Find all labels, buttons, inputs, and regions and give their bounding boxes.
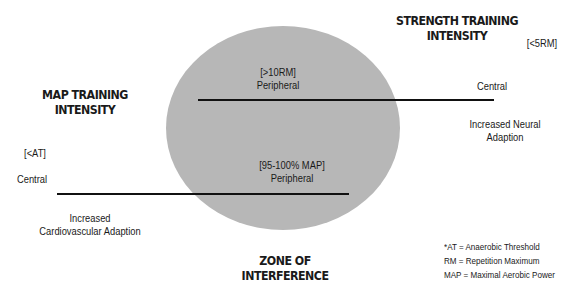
legend-item-rm: RM = Repetition Maximum	[444, 254, 563, 268]
legend-item-at: *AT = Anaerobic Threshold	[444, 240, 563, 254]
zone-of-interference-ellipse	[166, 26, 400, 230]
map-range-label: [<AT]	[21, 147, 50, 160]
zone-of-interference-label: ZONE OF INTERFERENCE	[217, 253, 353, 283]
map-high-value: [95-100% MAP]	[241, 159, 343, 172]
map-intensity-line	[57, 193, 349, 195]
map-outcome-line2: Cardiovascular Adaption	[31, 225, 150, 238]
strength-outcome-line2: Adaption	[458, 131, 552, 144]
strength-high-sub: Peripheral	[231, 79, 325, 92]
map-outcome: Increased Cardiovascular Adaption	[31, 212, 150, 238]
strength-intensity-line	[198, 99, 494, 101]
strength-range-label: [<5RM]	[523, 37, 560, 50]
strength-high-value: [>10RM]	[231, 66, 325, 79]
strength-title-line1: STRENGTH TRAINING	[393, 13, 521, 28]
map-central-label: Central	[15, 173, 49, 186]
map-training-title: MAP TRAINING INTENSITY	[30, 87, 141, 117]
strength-central-label: Central	[467, 80, 518, 93]
strength-training-title: STRENGTH TRAINING INTENSITY	[393, 13, 521, 43]
strength-outcome: Increased Neural Adaption	[458, 118, 552, 144]
abbreviation-legend: *AT = Anaerobic Threshold RM = Repetitio…	[444, 240, 570, 282]
strength-high-label: [>10RM] Peripheral	[231, 66, 325, 92]
strength-title-line2: INTENSITY	[393, 28, 521, 43]
strength-outcome-line1: Increased Neural	[458, 118, 552, 131]
map-high-sub: Peripheral	[241, 172, 343, 185]
legend-item-map: MAP = Maximal Aerobic Power	[444, 268, 563, 282]
map-title-line1: MAP TRAINING	[30, 87, 141, 102]
map-outcome-line1: Increased	[31, 212, 150, 225]
map-high-label: [95-100% MAP] Peripheral	[241, 159, 343, 185]
map-title-line2: INTENSITY	[30, 102, 141, 117]
